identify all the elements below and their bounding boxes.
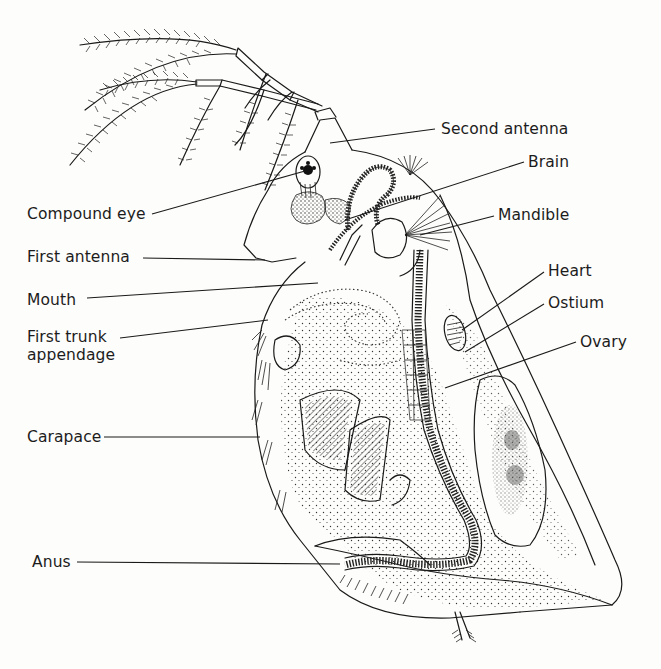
label-first-trunk-appendage-line1: First trunk [27, 328, 115, 346]
mandible-muscles [372, 155, 452, 258]
leader-second-antenna [330, 129, 435, 143]
label-brain: Brain [528, 153, 569, 171]
brain-drawing [291, 192, 350, 224]
label-mandible: Mandible [498, 206, 569, 224]
label-first-trunk-appendage-line2: appendage [27, 346, 115, 364]
label-anus: Anus [32, 553, 71, 571]
label-mouth: Mouth [27, 291, 76, 309]
leader-mouth [87, 283, 318, 298]
leader-first-antenna [143, 258, 265, 260]
label-compound-eye: Compound eye [27, 205, 146, 223]
leader-compound-eye [152, 171, 305, 214]
label-first-trunk-appendage: First trunk appendage [27, 328, 115, 364]
leader-heart [462, 272, 544, 330]
leader-mandible [420, 216, 494, 235]
label-second-antenna: Second antenna [441, 120, 568, 138]
label-carapace: Carapace [27, 428, 101, 446]
label-first-antenna: First antenna [27, 248, 130, 266]
label-ovary: Ovary [580, 333, 627, 351]
label-ostium: Ostium [548, 294, 604, 312]
leader-ostium [465, 304, 544, 352]
label-heart: Heart [548, 262, 592, 280]
leader-anus [77, 562, 340, 564]
leader-first-trunk-appendage [120, 320, 268, 338]
